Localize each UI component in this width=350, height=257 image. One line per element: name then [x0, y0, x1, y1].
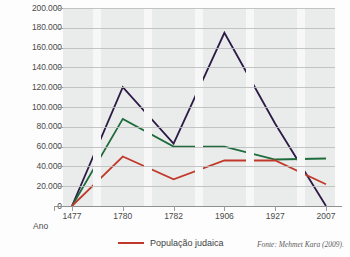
gridline	[63, 107, 335, 108]
x-axis-line	[55, 206, 342, 207]
gridline	[63, 147, 335, 148]
x-axis-title: Ano	[33, 221, 48, 231]
y-axis-tick	[56, 67, 63, 68]
y-axis-tick-label: 200.000	[2, 3, 62, 13]
y-axis-tick	[56, 147, 63, 148]
y-axis-tick	[56, 8, 63, 9]
gridline	[63, 127, 335, 128]
y-axis-tick-label: 180.000	[2, 22, 62, 32]
gridline	[63, 166, 335, 167]
gridline	[63, 28, 335, 29]
gridline	[63, 8, 335, 9]
y-axis-tick	[56, 127, 63, 128]
y-axis-tick-label: 20.000	[2, 181, 62, 191]
x-axis-tick	[54, 206, 55, 211]
y-axis-tick-label: 0	[2, 201, 62, 211]
chart-figure: 020.00040.00060.00080.000100.000120.0001…	[0, 0, 350, 257]
gridline	[63, 87, 335, 88]
legend: População judaica	[118, 238, 224, 248]
y-axis-tick-label: 80.000	[2, 121, 62, 131]
y-axis-tick-label: 140.000	[2, 62, 62, 72]
y-axis-tick-label: 120.000	[2, 82, 62, 92]
gridline	[63, 67, 335, 68]
y-axis-tick	[56, 48, 63, 49]
y-axis-tick	[56, 28, 63, 29]
y-axis-tick	[56, 186, 63, 187]
y-axis-tick	[56, 87, 63, 88]
y-axis-tick-label: 160.000	[2, 42, 62, 52]
y-axis-tick	[56, 107, 63, 108]
y-axis-tick-label: 100.000	[2, 102, 62, 112]
y-axis-tick-label: 40.000	[2, 161, 62, 171]
legend-label-populacao-judaica: População judaica	[150, 238, 224, 248]
y-axis-tick	[56, 166, 63, 167]
x-axis-tick-label: 1906	[200, 211, 248, 221]
gridline	[63, 48, 335, 49]
gridline	[63, 186, 335, 187]
plot-area	[63, 8, 335, 206]
x-axis-tick-label: 1477	[48, 211, 96, 221]
source-attribution: Fonte: Mehmet Kara (2009).	[257, 240, 344, 249]
x-axis-tick-label: 1927	[251, 211, 299, 221]
x-axis-tick-label: 1782	[150, 211, 198, 221]
legend-swatch-populacao-judaica	[118, 242, 144, 245]
y-axis-tick-label: 60.000	[2, 141, 62, 151]
x-axis-tick-label: 2007	[302, 211, 350, 221]
x-axis-tick-label: 1780	[99, 211, 147, 221]
